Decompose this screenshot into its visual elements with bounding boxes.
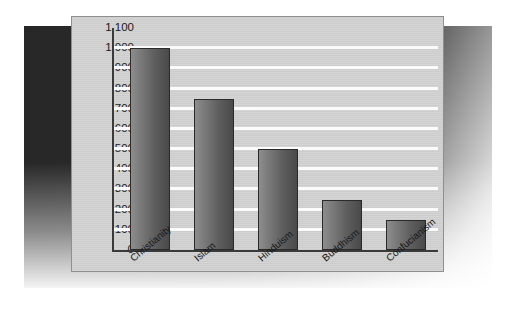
chart-panel: 1,1001,0009008007006005004003002001000 C… xyxy=(71,16,444,272)
plot-area xyxy=(112,28,438,252)
bar xyxy=(130,48,170,250)
bar xyxy=(194,99,234,250)
x-axis-category-labels: ChristianityIslamHinduismBuddhismConfuci… xyxy=(112,253,438,273)
screenshot-root: 1,1001,0009008007006005004003002001000 C… xyxy=(0,0,516,329)
y-axis-line xyxy=(112,28,114,252)
